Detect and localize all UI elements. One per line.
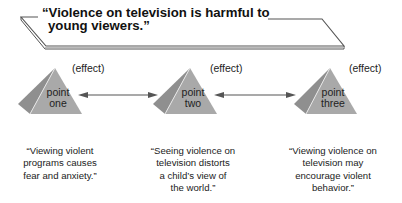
arrow-head-right [286, 92, 296, 98]
quote-line: “Viewing violent [0, 145, 120, 157]
quote-line: “Seeing violence on [133, 145, 253, 157]
quote-one: “Viewing violent programs causes fear an… [0, 145, 120, 182]
effect-label-two: (effect) [210, 62, 242, 74]
quote-line: programs causes [0, 157, 120, 169]
quote-line: fear and anxiety.” [0, 170, 120, 182]
effect-label-three: (effect) [349, 62, 381, 74]
point-label-two: point two [168, 87, 218, 109]
double-arrow-two-three [214, 92, 296, 98]
thesis-statement: “Violence on television is harmful to yo… [42, 6, 302, 32]
effect-label-one: (effect) [72, 62, 104, 74]
quote-line: “Viewing violence on [273, 145, 393, 157]
arrow-head-right [148, 92, 158, 98]
quote-three: “Viewing violence on television may enco… [273, 145, 393, 194]
point-label-line-2: one [33, 98, 83, 109]
quote-line: encourage violent [273, 170, 393, 182]
quote-line: television distorts [133, 157, 253, 169]
thesis-line-2: young viewers.” [42, 19, 302, 32]
point-label-one: point one [33, 87, 83, 109]
quote-two: “Seeing violence on television distorts … [133, 145, 253, 194]
double-arrow-one-two [78, 92, 158, 98]
quote-line: television may [273, 157, 393, 169]
quote-line: a child’s view of [133, 170, 253, 182]
point-label-line-2: two [168, 98, 218, 109]
point-label-line-2: three [308, 98, 358, 109]
point-label-three: point three [308, 87, 358, 109]
quote-line: behavior.” [273, 182, 393, 194]
quote-line: the world.” [133, 182, 253, 194]
